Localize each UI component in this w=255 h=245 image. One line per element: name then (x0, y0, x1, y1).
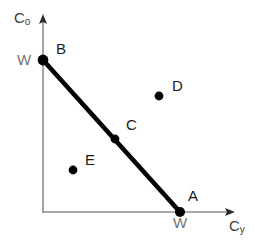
point-label-c: C (126, 117, 137, 132)
w-label-x-axis: W (173, 215, 187, 230)
x-axis-label-name: C (229, 217, 240, 234)
point-label-b: B (56, 41, 66, 56)
data-point-b (38, 55, 49, 66)
y-axis-label-subscript: o (25, 16, 31, 27)
tradeoff-line (43, 60, 180, 212)
w-label-y-axis: W (17, 52, 31, 67)
data-point-d (155, 92, 164, 101)
y-axis-label: Co (14, 10, 30, 25)
data-point-e (69, 166, 78, 175)
point-label-d: D (172, 78, 183, 93)
data-point-c (111, 135, 120, 144)
cost-tradeoff-figure: Co Cy B C A D E W W (0, 0, 255, 245)
point-label-e: E (85, 152, 95, 167)
y-axis-label-name: C (14, 9, 25, 26)
tradeoff-line-segment (43, 60, 180, 212)
x-axis-label: Cy (229, 218, 245, 233)
x-axis-label-subscript: y (240, 224, 245, 235)
axes-group (39, 14, 235, 216)
point-label-a: A (188, 188, 198, 203)
